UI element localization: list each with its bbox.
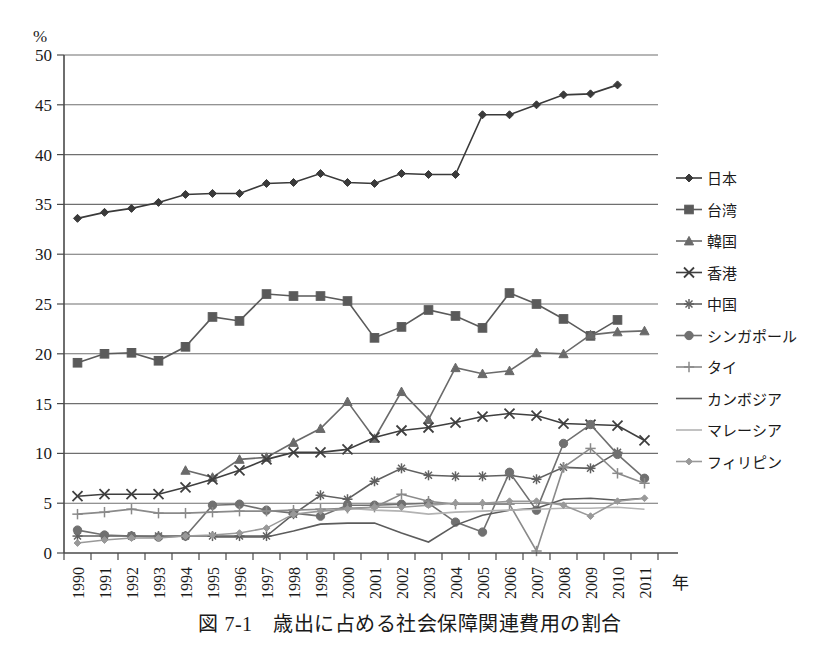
x-tick-label: 2005 bbox=[475, 567, 492, 599]
data-point-marker bbox=[396, 489, 406, 499]
data-point-marker bbox=[316, 490, 326, 500]
legend-item-4[interactable]: 香港 bbox=[676, 265, 737, 282]
x-tick-label: 2006 bbox=[502, 567, 519, 599]
data-point-marker bbox=[155, 198, 163, 206]
legend-item-1[interactable]: 日本 bbox=[676, 170, 737, 187]
data-point-marker bbox=[290, 178, 298, 186]
legend-item-label: シンガポール bbox=[707, 328, 797, 345]
legend-item-3[interactable]: 韓国 bbox=[676, 233, 737, 250]
x-tick-label: 1998 bbox=[286, 567, 303, 599]
data-point-marker bbox=[73, 358, 82, 367]
data-point-marker bbox=[127, 349, 136, 358]
x-tick-label: 2004 bbox=[448, 567, 465, 599]
data-point-marker bbox=[154, 356, 163, 365]
x-tick-label: 2009 bbox=[583, 567, 600, 599]
data-point-marker bbox=[73, 526, 81, 534]
figure-caption: 図 7-1 歳出に占める社会保障関連費用の割合 bbox=[0, 608, 820, 637]
y-tick-label: 30 bbox=[35, 245, 52, 264]
data-point-marker bbox=[74, 540, 81, 547]
data-point-marker bbox=[209, 189, 217, 197]
data-point-marker bbox=[640, 435, 650, 445]
data-point-marker bbox=[424, 306, 433, 315]
data-point-marker bbox=[126, 504, 136, 514]
data-point-marker bbox=[180, 508, 190, 518]
data-point-marker bbox=[452, 500, 459, 507]
data-point-marker bbox=[398, 170, 406, 178]
y-tick-label: 20 bbox=[35, 345, 52, 364]
data-point-marker bbox=[587, 90, 595, 98]
data-point-marker bbox=[263, 179, 271, 187]
series-1 bbox=[74, 81, 622, 222]
data-point-marker bbox=[289, 438, 298, 447]
data-point-marker bbox=[343, 397, 352, 406]
x-tick-label: 1990 bbox=[70, 567, 87, 599]
y-tick-label: 40 bbox=[35, 146, 52, 165]
x-tick-label: 1996 bbox=[232, 567, 249, 599]
data-point-marker bbox=[558, 462, 568, 472]
x-tick-label: 2011 bbox=[637, 567, 654, 598]
data-point-marker bbox=[505, 289, 514, 298]
data-point-marker bbox=[613, 450, 621, 458]
x-tick-label: 1993 bbox=[151, 567, 168, 599]
data-point-marker bbox=[397, 323, 406, 332]
legend-item-label: カンボジア bbox=[707, 391, 782, 408]
legend-item-9[interactable]: マレーシア bbox=[676, 422, 782, 439]
data-point-marker bbox=[533, 101, 541, 109]
data-point-marker bbox=[344, 178, 352, 186]
x-tick-label: 2008 bbox=[556, 567, 573, 599]
series-10 bbox=[74, 495, 648, 547]
data-point-marker bbox=[451, 471, 461, 481]
data-point-marker bbox=[479, 111, 487, 119]
data-point-marker bbox=[451, 312, 460, 321]
data-point-marker bbox=[685, 331, 693, 339]
data-point-marker bbox=[684, 362, 694, 372]
data-point-marker bbox=[478, 528, 486, 536]
y-tick-label: 0 bbox=[44, 544, 53, 563]
legend-item-label: フィリピン bbox=[707, 454, 782, 471]
legend-item-5[interactable]: 中国 bbox=[676, 296, 737, 313]
data-point-marker bbox=[235, 317, 244, 326]
data-point-marker bbox=[182, 190, 190, 198]
x-tick-label: 2007 bbox=[529, 567, 546, 599]
data-point-marker bbox=[613, 316, 622, 325]
data-point-marker bbox=[586, 420, 594, 428]
data-point-marker bbox=[425, 171, 433, 179]
data-point-marker bbox=[208, 313, 217, 322]
data-point-marker bbox=[532, 474, 542, 484]
data-point-marker bbox=[686, 458, 693, 465]
data-point-marker bbox=[424, 470, 434, 480]
data-point-marker bbox=[181, 343, 190, 352]
data-point-marker bbox=[99, 507, 109, 517]
legend-item-2[interactable]: 台湾 bbox=[676, 202, 737, 219]
legend-item-8[interactable]: カンボジア bbox=[676, 391, 782, 408]
data-point-marker bbox=[397, 463, 407, 473]
data-point-marker bbox=[397, 387, 406, 396]
data-point-marker bbox=[181, 466, 190, 475]
legend-item-7[interactable]: タイ bbox=[676, 359, 737, 376]
data-point-marker bbox=[531, 546, 541, 556]
legend-item-10[interactable]: フィリピン bbox=[676, 454, 782, 471]
y-tick-label: 50 bbox=[35, 46, 52, 65]
data-point-marker bbox=[586, 463, 596, 473]
x-tick-label: 2003 bbox=[421, 567, 438, 599]
x-tick-label: 1999 bbox=[313, 567, 330, 599]
y-tick-label: 45 bbox=[35, 96, 52, 115]
data-point-marker bbox=[685, 205, 694, 214]
legend-item-label: 韓国 bbox=[707, 233, 737, 250]
data-point-marker bbox=[128, 204, 136, 212]
data-point-marker bbox=[532, 300, 541, 309]
y-tick-label: 10 bbox=[35, 444, 52, 463]
data-point-marker bbox=[506, 111, 514, 119]
data-point-marker bbox=[478, 324, 487, 333]
legend-item-label: マレーシア bbox=[707, 422, 782, 439]
x-tick-label: 1991 bbox=[97, 567, 114, 599]
x-tick-label: 1997 bbox=[259, 567, 276, 599]
figure-container: 05101520253035404550%1990199119921993199… bbox=[0, 0, 820, 645]
x-tick-label: 2001 bbox=[367, 567, 384, 599]
x-tick-label: 1994 bbox=[178, 567, 195, 599]
legend-item-label: 日本 bbox=[707, 170, 737, 187]
legend-item-6[interactable]: シンガポール bbox=[676, 328, 797, 345]
legend-layer: 日本台湾韓国香港中国シンガポールタイカンボジアマレーシアフィリピン bbox=[676, 170, 797, 471]
y-axis-unit-label: % bbox=[33, 27, 47, 46]
x-tick-label: 2010 bbox=[610, 567, 627, 599]
